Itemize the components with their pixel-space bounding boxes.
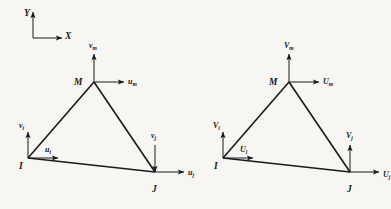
node-label-i-displacements: I (19, 162, 23, 172)
y-axis-label: Y (24, 9, 30, 19)
triangle-edge-IM-forces (223, 82, 289, 158)
vector-label-um-forces: Um (323, 78, 333, 86)
vector-label-vm-forces: Vm (284, 42, 294, 50)
triangle-edge-MJ-forces (289, 82, 350, 172)
vector-label-vj-forces: Vj (346, 132, 353, 140)
triangle-edge-IM-displacements (28, 82, 94, 158)
triangle-edge-MJ-displacements (94, 82, 155, 172)
node-label-i-forces: I (214, 162, 218, 172)
node-label-j-forces: J (347, 185, 352, 195)
node-label-m-displacements: M (74, 78, 82, 88)
triangular-element-figure (0, 0, 391, 209)
vector-label-vm-displacements: vm (89, 42, 97, 50)
vector-label-uj-displacements: uj (188, 169, 194, 177)
vector-label-vi-forces: Vi (213, 122, 220, 130)
vector-label-uj-forces: Uj (383, 171, 390, 179)
triangle-edge-IJ-displacements (28, 158, 155, 172)
vector-label-ui-displacements: ui (45, 146, 51, 154)
x-axis-label: X (65, 32, 71, 42)
vector-label-um-displacements: um (128, 78, 137, 86)
node-label-j-displacements: J (152, 185, 157, 195)
node-label-m-forces: M (269, 78, 277, 88)
triangle-edge-IJ-forces (223, 158, 350, 172)
vector-label-vi-displacements: vi (19, 122, 24, 130)
vector-label-ui-forces: Ui (240, 146, 247, 154)
vector-label-vj-displacements: vj (151, 132, 156, 140)
